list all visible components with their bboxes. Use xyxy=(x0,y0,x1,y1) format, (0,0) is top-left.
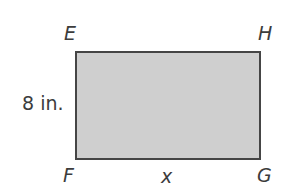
side-length-label-left: 8 in. xyxy=(22,94,64,113)
vertex-label-e: E xyxy=(64,24,76,43)
vertex-label-f: F xyxy=(63,166,74,185)
side-length-label-x: x xyxy=(161,167,172,186)
vertex-label-h: H xyxy=(258,24,272,43)
rectangle-EFGH xyxy=(75,51,261,160)
vertex-label-g: G xyxy=(257,166,272,185)
